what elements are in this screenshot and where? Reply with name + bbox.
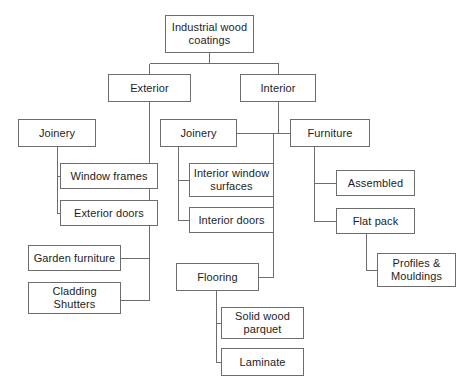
node-interior-joinery[interactable]: Joinery bbox=[160, 119, 237, 147]
node-solid-wood-parquet[interactable]: Solid wood parquet bbox=[221, 307, 304, 339]
node-interior-label: Interior bbox=[260, 82, 295, 95]
node-window-frames[interactable]: Window frames bbox=[60, 163, 158, 189]
diagram-canvas: Industrial wood coatings Exterior Interi… bbox=[0, 0, 468, 392]
node-interior[interactable]: Interior bbox=[240, 74, 316, 102]
node-furniture-label: Furniture bbox=[308, 127, 353, 140]
node-garden-furniture[interactable]: Garden furniture bbox=[28, 245, 121, 271]
node-exterior-label: Exterior bbox=[130, 82, 169, 95]
node-root[interactable]: Industrial wood coatings bbox=[165, 15, 254, 53]
node-cladding-shutters[interactable]: Cladding Shutters bbox=[28, 282, 121, 314]
node-furniture[interactable]: Furniture bbox=[290, 119, 370, 147]
node-interior-joinery-label: Joinery bbox=[180, 127, 216, 140]
node-laminate[interactable]: Laminate bbox=[221, 348, 304, 376]
node-cladding-shutters-label: Cladding Shutters bbox=[52, 285, 96, 311]
node-exterior-joinery[interactable]: Joinery bbox=[18, 119, 96, 147]
node-interior-doors-label: Interior doors bbox=[198, 214, 264, 227]
node-profiles-mouldings[interactable]: Profiles & Mouldings bbox=[377, 253, 456, 287]
node-assembled[interactable]: Assembled bbox=[336, 170, 415, 196]
node-flooring[interactable]: Flooring bbox=[176, 263, 259, 291]
node-window-frames-label: Window frames bbox=[70, 170, 147, 183]
node-assembled-label: Assembled bbox=[348, 177, 403, 190]
node-solid-wood-parquet-label: Solid wood parquet bbox=[235, 310, 290, 336]
node-interior-window-surfaces-label: Interior window surfaces bbox=[194, 167, 269, 193]
node-exterior-joinery-label: Joinery bbox=[39, 127, 75, 140]
node-exterior-doors[interactable]: Exterior doors bbox=[60, 200, 158, 226]
node-flat-pack-label: Flat pack bbox=[353, 215, 399, 228]
node-root-label: Industrial wood coatings bbox=[172, 21, 248, 47]
node-laminate-label: Laminate bbox=[239, 356, 285, 369]
node-flooring-label: Flooring bbox=[197, 271, 238, 284]
node-profiles-mouldings-label: Profiles & Mouldings bbox=[391, 257, 442, 283]
node-exterior[interactable]: Exterior bbox=[108, 74, 191, 102]
node-interior-window-surfaces[interactable]: Interior window surfaces bbox=[189, 163, 274, 197]
node-flat-pack[interactable]: Flat pack bbox=[336, 208, 415, 234]
node-exterior-doors-label: Exterior doors bbox=[74, 207, 144, 220]
node-garden-furniture-label: Garden furniture bbox=[34, 252, 116, 265]
node-interior-doors[interactable]: Interior doors bbox=[189, 207, 274, 233]
